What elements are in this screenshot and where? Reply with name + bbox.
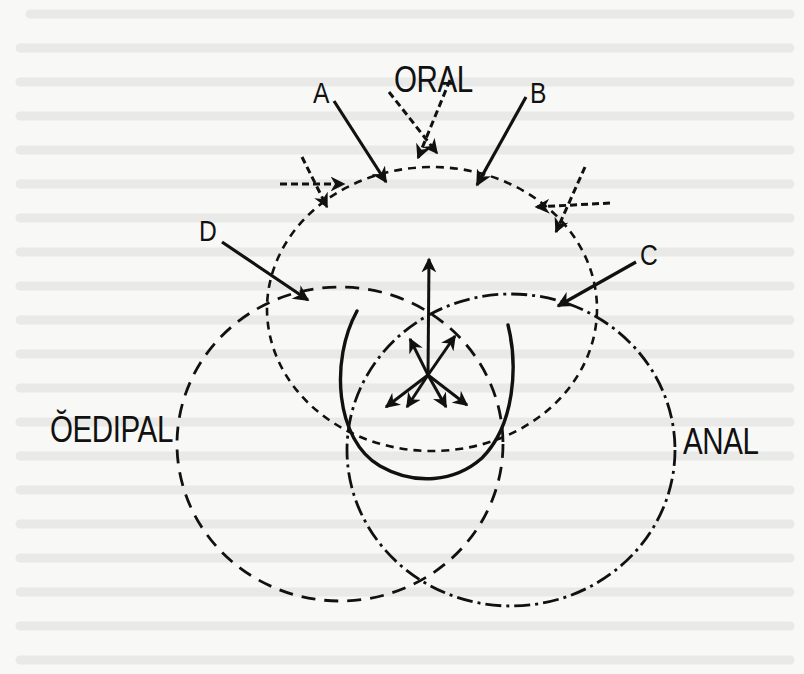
label-oral: ORAL: [394, 62, 473, 98]
label-anal: ANAL: [683, 424, 758, 460]
inner-solid-arc: [340, 311, 513, 479]
label-b: B: [530, 78, 546, 108]
arrow-b: [477, 97, 526, 185]
label-d: D: [199, 216, 216, 246]
dashed-arrows-left: [280, 157, 344, 207]
oedipal-circle: [177, 287, 503, 601]
oral-circle: [267, 167, 597, 451]
arrow-d: [222, 242, 308, 300]
label-oedipal: ŎEDIPAL: [50, 412, 173, 448]
scanned-page: ORAL ŎEDIPAL ANAL A B C D: [0, 0, 804, 674]
label-c: C: [640, 240, 657, 270]
arrow-a: [334, 101, 386, 182]
dashed-arrows-right: [536, 167, 610, 232]
label-a: A: [313, 78, 329, 108]
psychosexual-stages-diagram: [0, 0, 804, 674]
